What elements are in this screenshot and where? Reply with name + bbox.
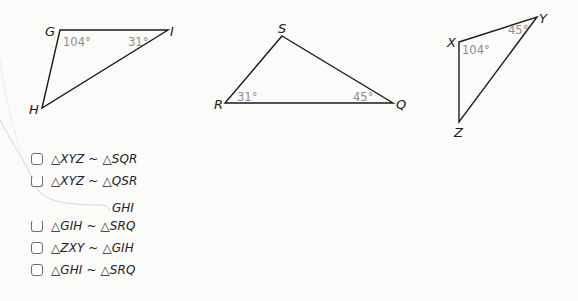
angle-label-r: 31° — [237, 90, 257, 104]
option-label: △GHI ~ △SRQ — [51, 263, 136, 277]
vertex-label-y: Y — [539, 11, 548, 26]
vertex-label-q: Q — [396, 97, 406, 112]
option-xyz-sqr[interactable]: △XYZ ~ △SQR — [31, 150, 137, 168]
angle-label-y: 45° — [508, 23, 528, 37]
option-xyz-qsr[interactable]: △XYZ ~ △QSR — [31, 172, 137, 190]
triangle-ghi: G I H 104° 31° — [29, 24, 174, 117]
vertex-label-g: G — [45, 24, 55, 39]
checkbox[interactable] — [31, 264, 43, 276]
angle-label-i: 31° — [128, 35, 148, 49]
angle-label-x: 104° — [462, 43, 490, 57]
angle-label-q: 45° — [353, 90, 373, 104]
vertex-label-z: Z — [453, 125, 464, 140]
vertex-label-i: I — [170, 24, 174, 39]
vertex-label-h: H — [29, 102, 39, 117]
checkbox[interactable] — [31, 242, 43, 254]
vertex-label-x: X — [446, 35, 457, 50]
option-label: △ZXY ~ △GIH — [51, 241, 134, 255]
triangle-xyz: X Y Z 104° 45° — [446, 11, 548, 140]
checkbox[interactable] — [31, 153, 43, 165]
vertex-label-s: S — [278, 21, 286, 36]
angle-label-g: 104° — [63, 35, 91, 49]
checkbox[interactable] — [31, 175, 43, 187]
option-ghi-srq[interactable]: △GHI ~ △SRQ — [31, 261, 136, 279]
checkbox[interactable] — [31, 220, 43, 232]
option-label: △XYZ ~ △SQR — [51, 152, 137, 166]
option-gih-srq[interactable]: △GIH ~ △SRQ — [31, 217, 136, 235]
triangle-sqr: S R Q 31° 45° — [214, 21, 406, 112]
option-label: △XYZ ~ △QSR — [51, 174, 137, 188]
option-zxy-gih[interactable]: △ZXY ~ △GIH — [31, 239, 134, 257]
option-obscured-ghi: GHI — [112, 201, 134, 215]
option-label: △GIH ~ △SRQ — [51, 219, 136, 233]
paper-fold-line — [0, 60, 20, 150]
vertex-label-r: R — [214, 97, 223, 112]
